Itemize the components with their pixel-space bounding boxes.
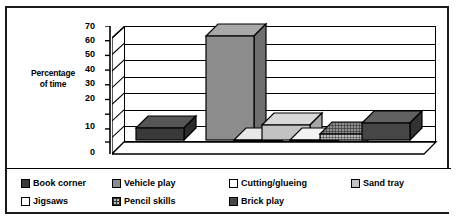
y-tick-label-20: 20 <box>75 94 95 103</box>
y-tick-label-70: 70 <box>75 22 95 31</box>
bar-pencil-skills[interactable] <box>320 136 368 142</box>
y-tick-label-40: 40 <box>75 65 95 74</box>
legend-swatch-cutting-glueing <box>229 179 238 188</box>
legend-label-sand-tray: Sand tray <box>363 178 404 188</box>
legend-label-pencil-skills: Pencil skills <box>124 196 176 206</box>
legend-item-brick-play[interactable]: Brick play <box>229 193 284 209</box>
legend-item-cutting-glueing[interactable]: Cutting/glueing <box>229 175 307 191</box>
chart-3d-body <box>112 26 436 154</box>
legend-swatch-brick-play <box>229 197 238 206</box>
legend-swatch-vehicle-play <box>112 179 121 188</box>
legend-swatch-book-corner <box>21 179 30 188</box>
legend-swatch-jigsaws <box>21 197 30 206</box>
legend-label-book-corner: Book corner <box>33 178 86 188</box>
chart-legend: Book corner Vehicle play Cutting/glueing… <box>7 168 451 212</box>
bar-series <box>124 26 436 154</box>
legend-item-pencil-skills[interactable]: Pencil skills <box>112 193 176 209</box>
y-tick-label-50: 50 <box>75 50 95 59</box>
legend-item-book-corner[interactable]: Book corner <box>21 175 86 191</box>
y-tick-label-60: 60 <box>75 36 95 45</box>
y-tick-label-0: 0 <box>75 148 95 157</box>
legend-swatch-sand-tray <box>351 179 360 188</box>
legend-label-jigsaws: Jigsaws <box>33 196 68 206</box>
y-axis <box>99 26 113 154</box>
legend-label-vehicle-play: Vehicle play <box>124 178 176 188</box>
chart-frame: Percentage of time 70 60 50 40 30 20 10 … <box>5 6 449 214</box>
bar-book-corner[interactable] <box>136 130 184 142</box>
legend-label-cutting-glueing: Cutting/glueing <box>241 178 307 188</box>
plot-region: Percentage of time 70 60 50 40 30 20 10 … <box>7 8 451 168</box>
legend-row-1: Book corner Vehicle play Cutting/glueing… <box>7 175 451 191</box>
legend-item-vehicle-play[interactable]: Vehicle play <box>112 175 176 191</box>
legend-item-jigsaws[interactable]: Jigsaws <box>21 193 68 209</box>
y-tick-label-10: 10 <box>75 122 95 131</box>
bar-brick-play[interactable] <box>362 125 410 142</box>
legend-item-sand-tray[interactable]: Sand tray <box>351 175 404 191</box>
bar-vehicle-play[interactable] <box>206 38 254 142</box>
legend-label-brick-play: Brick play <box>241 196 284 206</box>
legend-row-2: Jigsaws Pencil skills Brick play <box>7 193 451 209</box>
y-tick-label-30: 30 <box>75 79 95 88</box>
legend-swatch-pencil-skills <box>112 197 121 206</box>
